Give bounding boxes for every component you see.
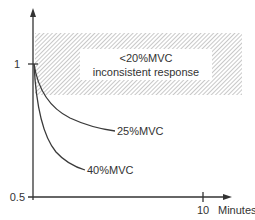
y-tick-label-0-5: 0.5 [10,191,25,203]
fatigue-chart: <20%MVC inconsistent response 1 0.5 10 M… [0,0,255,220]
x-axis-label: Minutes [218,204,255,216]
y-tick-label-1: 1 [14,58,20,70]
curve-label-25-mvc: 25%MVC [117,125,164,137]
band-label-line1: <20%MVC [120,52,173,64]
band-label-line2: inconsistent response [93,66,199,78]
y-axis-arrow-icon [30,8,36,17]
x-tick-label-10: 10 [197,204,209,216]
curve-label-40-mvc: 40%MVC [87,164,134,176]
x-axis-arrow-icon [223,194,232,200]
